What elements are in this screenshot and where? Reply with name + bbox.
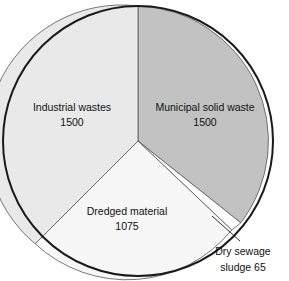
- label-dry-sewage-sludge-line2: sludge 65: [220, 261, 266, 273]
- label-dry-sewage-sludge-line1: Dry sewage: [215, 245, 271, 257]
- pie-chart-svg: Municipal solid waste 1500 Industrial wa…: [0, 0, 289, 281]
- label-industrial-wastes-value: 1500: [60, 116, 84, 128]
- label-dredged-material-value: 1075: [115, 220, 139, 232]
- label-industrial-wastes-name: Industrial wastes: [33, 101, 111, 113]
- label-municipal-solid-waste-name: Municipal solid waste: [155, 101, 254, 113]
- label-dredged-material-name: Dredged material: [87, 205, 168, 217]
- pie-chart-figure: Municipal solid waste 1500 Industrial wa…: [0, 0, 289, 281]
- label-municipal-solid-waste-value: 1500: [193, 116, 217, 128]
